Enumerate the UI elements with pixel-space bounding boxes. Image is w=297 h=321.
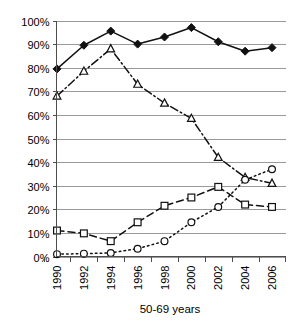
data-point-marker bbox=[107, 27, 115, 35]
y-tick-label: 100% bbox=[21, 16, 49, 28]
series-1-group bbox=[53, 24, 276, 73]
y-tick-label: 70% bbox=[27, 86, 49, 98]
data-point-marker bbox=[107, 45, 115, 52]
data-point-marker bbox=[161, 33, 169, 41]
series-3-group bbox=[54, 183, 276, 244]
data-point-marker bbox=[242, 201, 249, 208]
y-tick-label: 30% bbox=[27, 181, 49, 193]
data-point-marker bbox=[188, 194, 195, 201]
x-axis-title: 50-69 years bbox=[140, 303, 201, 315]
x-tick-label: 1998 bbox=[159, 266, 171, 290]
data-point-marker bbox=[107, 238, 114, 245]
gridlines bbox=[57, 22, 286, 258]
data-point-marker bbox=[80, 230, 87, 237]
data-point-marker bbox=[242, 176, 249, 183]
data-point-marker bbox=[134, 245, 141, 252]
y-tick-label: 0% bbox=[34, 252, 50, 264]
data-point-marker bbox=[161, 202, 168, 209]
y-axis-tick-labels: 0%10%20%30%40%50%60%70%80%90%100% bbox=[21, 16, 49, 264]
y-tick-label: 80% bbox=[27, 63, 49, 75]
data-point-marker bbox=[241, 47, 249, 55]
data-point-marker bbox=[134, 219, 141, 226]
line-chart: 0%10%20%30%40%50%60%70%80%90%100% 199019… bbox=[0, 0, 297, 321]
x-tick-label: 1996 bbox=[132, 266, 144, 290]
data-point-marker bbox=[215, 183, 222, 190]
data-point-marker bbox=[269, 204, 276, 211]
series-4-group bbox=[54, 166, 276, 258]
series-layer bbox=[53, 24, 276, 258]
x-axis-tick-labels: 199019921994199619982000200220042006 bbox=[51, 266, 278, 290]
chart-container: 0%10%20%30%40%50%60%70%80%90%100% 199019… bbox=[0, 0, 297, 321]
data-point-marker bbox=[188, 219, 195, 226]
y-tick-label: 20% bbox=[27, 204, 49, 216]
y-tick-label: 10% bbox=[27, 228, 49, 240]
x-tick-label: 2004 bbox=[239, 266, 251, 290]
data-point-marker bbox=[161, 99, 169, 106]
x-tick-label: 1994 bbox=[105, 266, 117, 290]
data-point-marker bbox=[134, 40, 142, 48]
data-point-marker bbox=[161, 238, 168, 245]
y-tick-label: 40% bbox=[27, 157, 49, 169]
data-point-marker bbox=[215, 204, 222, 211]
data-point-marker bbox=[269, 166, 276, 173]
data-point-marker bbox=[107, 250, 114, 257]
x-tick-label: 2000 bbox=[185, 266, 197, 290]
x-tick-label: 1990 bbox=[51, 266, 63, 290]
x-tick-label: 2006 bbox=[266, 266, 278, 290]
x-tick-label: 2002 bbox=[212, 266, 224, 290]
y-tick-label: 60% bbox=[27, 110, 49, 122]
data-point-marker bbox=[187, 24, 195, 32]
y-tick-label: 50% bbox=[27, 134, 49, 146]
y-tick-label: 90% bbox=[27, 39, 49, 51]
x-tick-label: 1992 bbox=[78, 266, 90, 290]
